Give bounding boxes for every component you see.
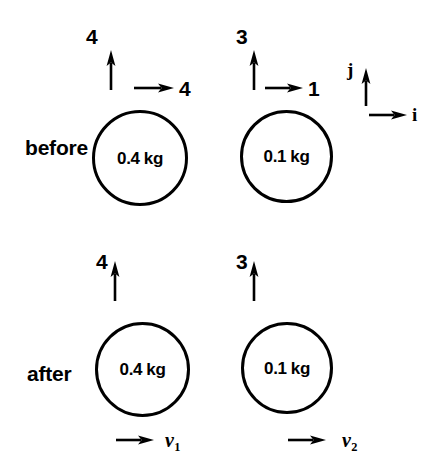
after-body-1-vertical-arrow-label: 4 (96, 251, 108, 272)
after-body-1-velocity-label: v1 (165, 430, 180, 450)
before-body-2-vertical-arrow-label: 3 (236, 26, 248, 47)
after-body-1-vertical-arrow (107, 261, 123, 301)
after-body-2-circle: 0.1 kg (241, 322, 333, 414)
before-body-1-horizontal-arrow (134, 80, 174, 96)
after-body-2-velocity-label: v2 (342, 430, 357, 450)
basis-vector-j-arrow (358, 68, 374, 106)
after-body-2-velocity-subscript: 2 (351, 440, 357, 454)
basis-vector-i-label: i (412, 105, 417, 124)
before-body-2-circle: 0.1 kg (240, 110, 333, 203)
row-label-after: after (27, 363, 72, 384)
before-body-2-horizontal-arrow-label: 1 (308, 78, 320, 99)
before-body-2-vertical-arrow (246, 50, 262, 90)
before-body-1-horizontal-arrow-label: 4 (179, 78, 191, 99)
before-body-1-mass-label: 0.4 kg (117, 150, 163, 167)
before-body-2-horizontal-arrow (265, 80, 303, 96)
after-body-1-velocity-subscript: 1 (174, 440, 180, 454)
after-body-1-circle: 0.4 kg (95, 322, 190, 417)
after-body-1-mass-label: 0.4 kg (120, 361, 166, 378)
basis-vector-j-label: j (347, 60, 353, 79)
before-body-1-vertical-arrow (103, 50, 119, 90)
basis-vector-i-arrow (369, 107, 407, 123)
after-body-1-velocity-symbol: v (165, 429, 174, 451)
after-body-2-mass-label: 0.1 kg (264, 360, 310, 377)
after-body-2-velocity-symbol: v (342, 429, 351, 451)
before-body-2-mass-label: 0.1 kg (264, 148, 310, 165)
after-body-2-velocity-arrow (288, 432, 326, 448)
before-body-1-vertical-arrow-label: 4 (86, 26, 98, 47)
after-body-1-velocity-arrow (116, 432, 154, 448)
before-body-1-circle: 0.4 kg (92, 110, 188, 206)
row-label-before: before (25, 137, 88, 158)
after-body-2-vertical-arrow (246, 261, 262, 301)
physics-collision-figure: before 4 4 0.4 kg 3 1 (0, 0, 436, 468)
